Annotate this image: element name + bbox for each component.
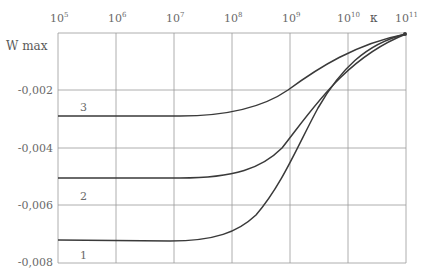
svg-text:-0,008: -0,008 <box>18 256 53 269</box>
curve-2-label: 2 <box>80 190 87 203</box>
svg-text:1011: 1011 <box>395 11 418 25</box>
x-axis-label: κ <box>370 11 378 25</box>
x-axis-ticks: 105 106 107 108 109 1010 1011 κ <box>50 11 418 25</box>
svg-text:105: 105 <box>50 11 68 25</box>
svg-text:108: 108 <box>224 11 242 25</box>
svg-text:107: 107 <box>166 11 184 25</box>
svg-text:-0,006: -0,006 <box>18 199 53 212</box>
svg-text:109: 109 <box>282 11 300 25</box>
svg-text:-0,004: -0,004 <box>18 142 53 155</box>
y-axis-label: W max <box>6 39 48 53</box>
convergence-point <box>403 32 407 36</box>
y-axis-ticks: W max -0,002 -0,004 -0,006 -0,008 <box>6 39 53 269</box>
chart: 105 106 107 108 109 1010 1011 κ W max -0… <box>0 0 432 274</box>
svg-text:106: 106 <box>108 11 127 25</box>
svg-text:-0,002: -0,002 <box>18 84 53 97</box>
curve-3-label: 3 <box>80 101 87 114</box>
svg-text:1010: 1010 <box>337 11 360 25</box>
curve-1-label: 1 <box>80 249 87 262</box>
